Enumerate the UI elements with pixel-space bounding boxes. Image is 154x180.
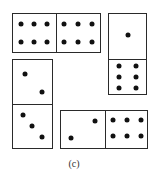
pip [62,40,67,45]
pip [69,136,74,141]
pip [21,113,26,118]
domino-left-2-3 [12,59,53,149]
pip [45,22,50,27]
domino-half-6 [13,14,57,52]
domino-half-6 [109,60,146,95]
pip [134,64,139,69]
pip [125,134,130,139]
pip [19,40,24,45]
pip [134,75,139,80]
pip [117,86,122,91]
pip [117,75,122,80]
figure-label: (c) [64,158,84,169]
pip [45,40,50,45]
pip [117,64,122,69]
domino-half-2 [13,60,52,104]
pip [62,22,67,27]
pip [90,40,95,45]
domino-half-6 [106,111,148,148]
pip [93,119,98,124]
pip [111,118,116,123]
pip [134,86,139,91]
pip [40,90,45,95]
pip [90,22,95,27]
pip [125,118,130,123]
pip [76,22,81,27]
pip [126,33,131,38]
pip [23,72,28,77]
pip [111,134,116,139]
pip [19,22,24,27]
pip [32,22,37,27]
domino-top-6-6 [12,13,101,53]
domino-half-3 [13,105,52,148]
pip [76,40,81,45]
domino-half-1 [109,14,146,59]
pip [40,135,45,140]
pip [30,124,35,129]
domino-bottom-2-6 [60,110,148,149]
pip [32,40,37,45]
pip [139,118,144,123]
domino-half-2 [61,111,105,148]
domino-right-1-6 [108,13,147,95]
domino-half-6 [57,14,101,52]
pip [139,134,144,139]
